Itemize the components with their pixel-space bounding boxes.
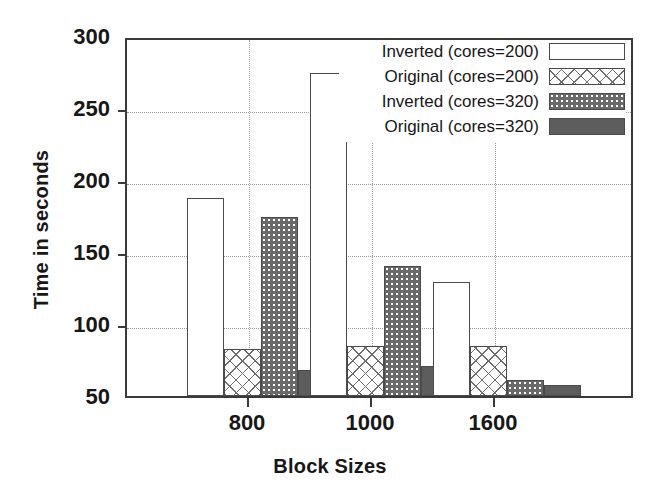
y-tick-label-50: 50 [20,386,110,408]
dotted-rect-swatch-icon [549,93,625,110]
legend-label-inverted-320: Inverted (cores=320) [382,92,539,112]
y-tick-label-100: 100 [20,314,110,336]
x-axis-title: Block Sizes [120,455,540,478]
bar-1600-inverted-200 [433,282,470,396]
legend: Inverted (cores=200) Original (cores=200… [339,38,625,142]
bar-1600-inverted-320 [507,380,544,396]
x-tick-label-1600: 1600 [433,412,553,434]
plot-area: Inverted (cores=200) Original (cores=200… [125,38,633,398]
y-tick-label-250: 250 [20,98,110,120]
legend-item-original-200: Original (cores=200) [339,65,625,88]
bar-800-inverted-320 [261,217,298,396]
empty-rect-swatch-icon [549,43,625,60]
bar-800-original-200 [224,349,261,396]
y-tick-label-150: 150 [20,242,110,264]
legend-item-inverted-320: Inverted (cores=320) [339,90,625,113]
legend-label-original-320: Original (cores=320) [385,117,540,137]
bar-800-inverted-200 [187,198,224,396]
gridline-y-200 [127,184,631,185]
bar-chart: Time in seconds 300 250 200 150 100 50 8… [0,0,650,494]
y-tick-label-200: 200 [20,170,110,192]
legend-item-original-320: Original (cores=320) [339,115,625,138]
y-tick-label-300: 300 [20,26,110,48]
bar-1600-original-200 [470,346,507,396]
legend-label-inverted-200: Inverted (cores=200) [382,42,539,62]
bar-1000-original-200 [347,346,384,396]
gridline-x-800 [249,40,250,396]
y-axis-title: Time in seconds [30,115,53,345]
x-tick-label-800: 800 [187,412,307,434]
x-tick-label-1000: 1000 [310,412,430,434]
solid-rect-swatch-icon [549,118,625,135]
legend-label-original-200: Original (cores=200) [385,67,540,87]
crosshatch-rect-swatch-icon [549,68,625,85]
legend-item-inverted-200: Inverted (cores=200) [339,40,625,63]
bar-1600-original-320 [544,385,581,396]
bar-1000-inverted-320 [384,266,421,396]
